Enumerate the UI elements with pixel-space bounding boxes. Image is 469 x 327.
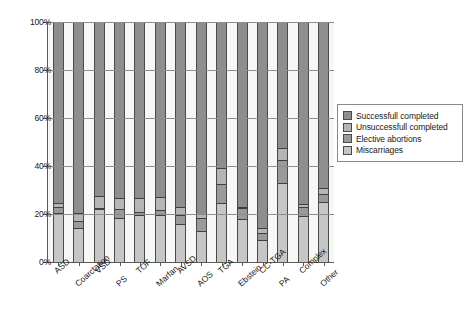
x-axis-label-pa: PA [277, 274, 292, 288]
legend-swatch-icon [343, 134, 352, 143]
legend-item-label: Miscarriages [356, 145, 403, 155]
x-axis-label-tga: TGA [216, 256, 235, 275]
x-axis-labels: ASDCoarctationVSDPSTOFMarfanAVSDAOSTGAEb… [0, 0, 469, 327]
legend-item-elective-abortions: Elective abortions [343, 134, 458, 144]
legend-swatch-icon [343, 123, 352, 132]
legend-item-label: Elective abortions [356, 134, 421, 144]
x-axis-label-other: Other [318, 267, 340, 288]
stacked-bar-chart: 0%20%40%60%80%100% ASDCoarctationVSDPSTO… [0, 0, 469, 327]
x-axis-label-aos: AOS [195, 269, 215, 288]
x-axis-label-ps: PS [114, 274, 129, 289]
x-axis-label-cc-tga: CC-TGA [257, 247, 287, 276]
x-axis-label-avsd: AVSD [175, 253, 198, 275]
x-axis-label-tof: TOF [134, 257, 153, 276]
x-axis-label-complex: Complex [297, 246, 328, 275]
chart-legend: Successfull completed Unsuccessfull comp… [337, 104, 463, 162]
legend-item-miscarriages: Miscarriages [343, 145, 458, 155]
legend-item-successfull-completed: Successfull completed [343, 111, 458, 121]
legend-item-unsuccessfull-completed: Unsuccessfull completed [343, 122, 458, 132]
legend-item-label: Successfull completed [356, 111, 438, 121]
legend-item-label: Unsuccessfull completed [356, 122, 448, 132]
legend-swatch-icon [343, 146, 352, 155]
x-axis-label-asd: ASD [52, 256, 71, 275]
legend-swatch-icon [343, 111, 352, 120]
